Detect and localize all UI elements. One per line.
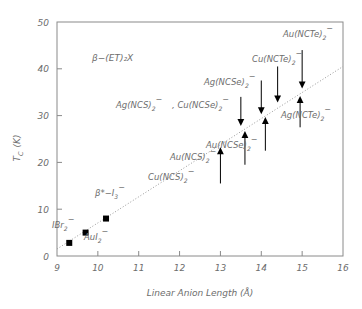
data-point-triangle [242, 131, 249, 138]
point-label-agncse2: Ag(NCSe)2− [203, 72, 255, 89]
point-label-cuncs2: Cu(NCS)2− [148, 167, 194, 184]
x-tick-label: 10 [92, 263, 104, 273]
data-point-triangle [258, 107, 265, 114]
x-tick-label: 14 [256, 263, 268, 273]
x-tick-label: 9 [54, 263, 60, 273]
x-tick-label: 11 [133, 263, 144, 273]
point-label-cuncse2b: , Cu(NCSe)2− [172, 95, 229, 112]
y-tick-label: 50 [38, 18, 50, 28]
y-tick-label: 10 [38, 205, 50, 215]
y-axis-ticks [57, 69, 62, 209]
data-point-triangle [299, 82, 306, 89]
point-label-beta-i3: β*−I3− [94, 183, 125, 200]
y-tick-label: 30 [38, 111, 50, 121]
y-tick-label: 0 [43, 252, 49, 262]
data-point-triangle [237, 119, 244, 126]
y-tick-label: 40 [38, 64, 50, 74]
point-label-aui2: AuI2− [83, 227, 108, 244]
point-label-agncs2: Ag(NCS)2− [115, 95, 162, 112]
svg-text:TC(K): TC(K) [12, 135, 25, 162]
figure-container: 910111213141516 01020304050 Linear Anion… [0, 0, 362, 309]
point-label-ibr2: IBr2− [52, 215, 74, 232]
point-label-auncse2: Au(NCSe)2− [205, 135, 257, 152]
y-tick-label: 20 [38, 158, 50, 168]
x-axis-tick-labels: 910111213141516 [54, 263, 349, 273]
point-label-agncte2: Ag(NCTe)2− [280, 105, 331, 122]
data-point-triangle [274, 96, 281, 103]
x-tick-label: 13 [215, 263, 227, 273]
x-axis-ticks [98, 251, 302, 256]
x-axis-title: Linear Anion Length (Å) [147, 287, 254, 298]
data-point-square [103, 216, 109, 222]
x-tick-label: 15 [296, 263, 308, 273]
data-point-triangle [297, 96, 304, 103]
data-point-triangle [262, 117, 269, 124]
series-annotation-label: β−(ET)₂X [91, 53, 134, 63]
y-axis-title: TC(K) [12, 135, 25, 162]
tc-vs-anion-length-chart: 910111213141516 01020304050 Linear Anion… [0, 0, 362, 309]
x-tick-label: 16 [337, 263, 349, 273]
y-axis-title-unit: (K) [12, 135, 22, 148]
data-point-square [66, 240, 72, 246]
y-axis-title-subscript: C [17, 151, 25, 156]
point-label-cuncte2: Cu(NCTe)2− [252, 49, 302, 66]
x-tick-label: 12 [174, 263, 186, 273]
point-label-auncte2: Au(NCTe)2− [282, 24, 333, 41]
y-axis-tick-labels: 01020304050 [38, 18, 50, 262]
